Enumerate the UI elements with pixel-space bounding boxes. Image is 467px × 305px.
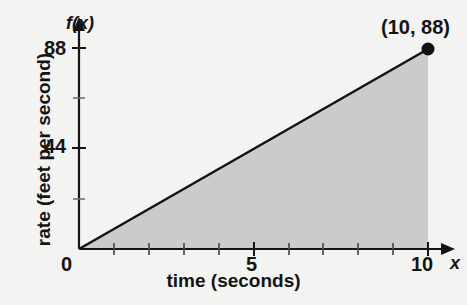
- x-axis-variable-label: x: [450, 254, 460, 272]
- chart-figure: 88 44 0 5 10 f(x) x (10, 88) time (secon…: [0, 0, 467, 305]
- endpoint-marker[interactable]: [422, 43, 435, 56]
- x-axis-title: time (seconds): [0, 271, 467, 290]
- y-axis-variable-label: f(x): [66, 14, 94, 32]
- y-axis-title: rate (feet per second): [34, 25, 53, 275]
- endpoint-coordinate-label: (10, 88): [381, 17, 450, 37]
